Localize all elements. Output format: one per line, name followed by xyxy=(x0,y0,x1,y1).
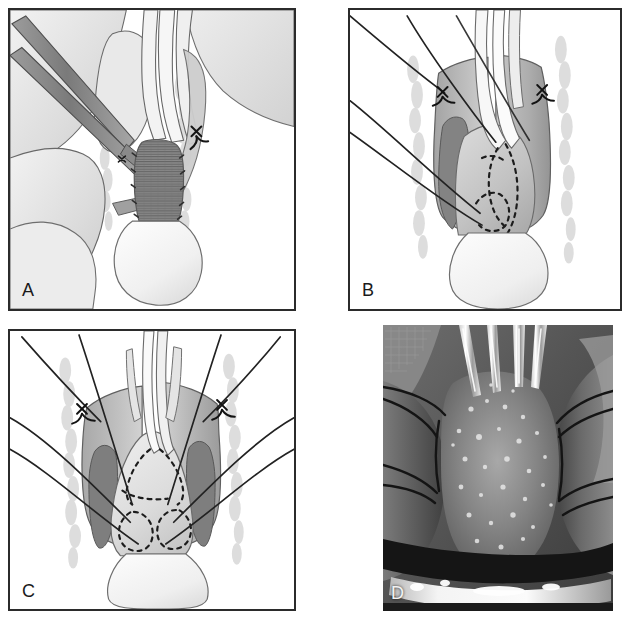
panel-d xyxy=(383,325,613,611)
distal-bulb xyxy=(108,554,208,609)
photo-bottom-edge xyxy=(383,603,613,611)
panel-c-illustration xyxy=(10,331,294,609)
panel-b xyxy=(348,8,622,311)
hatched-tubular-structure xyxy=(134,139,183,225)
distal-bulb xyxy=(449,233,547,309)
panel-d-photograph xyxy=(383,325,613,611)
panel-c xyxy=(8,329,296,611)
panel-label-a: A xyxy=(22,281,35,299)
distal-bulb xyxy=(114,221,202,305)
figure-plate: A B C D xyxy=(0,0,631,629)
panel-a-illustration xyxy=(10,10,294,309)
panel-b-illustration xyxy=(350,10,620,309)
panel-label-c: C xyxy=(22,582,36,600)
panel-a xyxy=(8,8,296,311)
panel-label-d: D xyxy=(391,584,405,602)
panel-label-b: B xyxy=(362,281,375,299)
granular-central-tissue xyxy=(441,371,559,570)
